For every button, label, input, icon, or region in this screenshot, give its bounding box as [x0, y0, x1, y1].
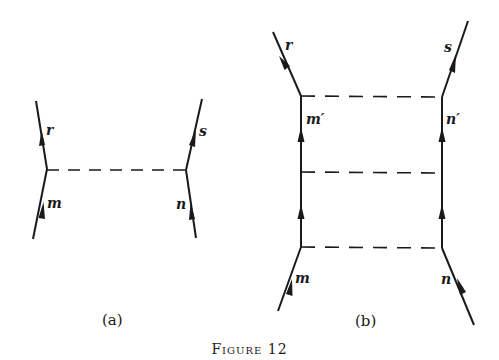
arrows-a: [39, 129, 197, 220]
subfigure-label-a: (a): [102, 313, 123, 328]
arrow-icon: [439, 204, 446, 219]
arrow-icon: [298, 127, 305, 142]
arrow-icon: [298, 204, 305, 219]
dashed-rung-1: [301, 96, 442, 97]
label-r-b: r: [285, 38, 292, 52]
label-n-prime-b: n′: [446, 112, 460, 126]
dashed-rung-3: [301, 247, 442, 248]
label-m-b: m: [295, 271, 310, 285]
arrow-icon: [449, 54, 456, 73]
subfigure-label-b: (b): [355, 314, 376, 329]
label-s-b: s: [444, 40, 452, 54]
arrow-icon: [439, 127, 446, 142]
arrows-b: [279, 54, 466, 296]
label-s-a: s: [199, 124, 207, 138]
feynman-diagrams: [0, 0, 499, 360]
label-r-a: r: [46, 123, 53, 137]
label-n-a: n: [176, 197, 186, 211]
label-m-prime-b: m′: [306, 112, 325, 126]
arrow-icon: [39, 130, 45, 146]
label-m-a: m: [47, 196, 62, 210]
dashed-rung-2: [301, 172, 442, 173]
diagram-a: [33, 99, 202, 239]
label-n-b: n: [441, 272, 451, 286]
line-n: [186, 170, 196, 238]
figure-caption: Figure 12: [0, 341, 499, 357]
line-m: [33, 169, 47, 239]
arrow-icon: [189, 129, 196, 147]
